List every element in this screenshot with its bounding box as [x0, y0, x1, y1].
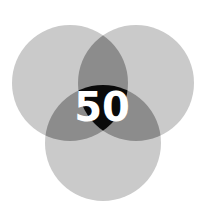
venn-diagram: 50 — [0, 0, 215, 219]
center-label: 50 — [74, 84, 130, 130]
